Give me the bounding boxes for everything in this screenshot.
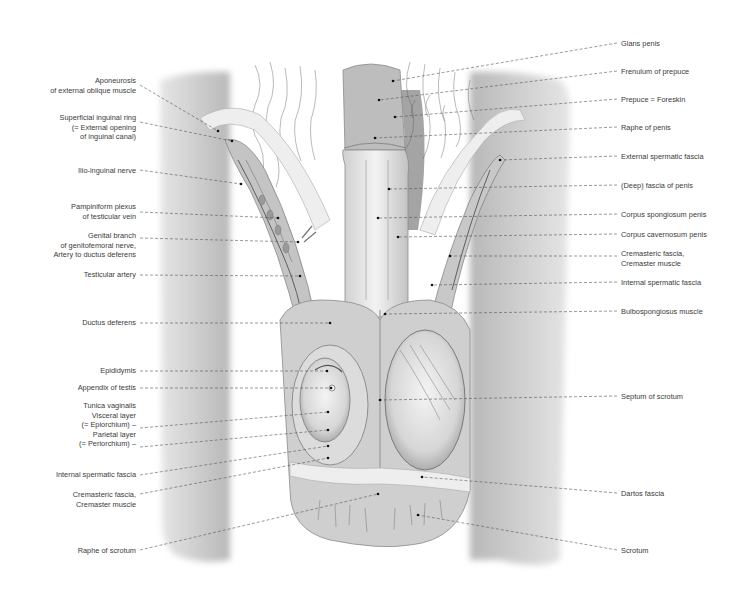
label-testicular-artery: Testicular artery [84, 270, 136, 280]
label-aponeurosis: Aponeurosis of external oblique muscle [50, 76, 136, 95]
label-appendix-of-testis: Appendix of testis [78, 383, 136, 393]
label-frenulum-of-prepuce: Frenulum of prepuce [621, 67, 689, 77]
label-scrotum: Scrotum [621, 546, 649, 556]
label-raphe-of-penis: Raphe of penis [621, 123, 671, 133]
label-ductus-deferens: Ductus deferens [82, 318, 136, 328]
label-corpus-cavernosum: Corpus cavernosum penis [621, 230, 707, 240]
label-corpus-spongiosum: Corpus spongiosum penis [621, 210, 706, 220]
penis [343, 64, 409, 318]
label-raphe-of-scrotum: Raphe of scrotum [78, 546, 136, 556]
label-internal-spermatic-fascia-left: Internal spermatic fascia [56, 470, 136, 480]
label-septum-of-scrotum: Septum of scrotum [621, 392, 683, 402]
label-deep-fascia-of-penis: (Deep) fascia of penis [621, 181, 693, 191]
label-ilio-inguinal-nerve: Ilio-inguinal nerve [78, 166, 136, 176]
label-external-spermatic-fascia: External spermatic fascia [621, 152, 704, 162]
label-epididymis: Epididymis [100, 366, 136, 376]
label-tunica-vaginalis: Tunica vaginalis Visceral layer (= Epior… [79, 401, 136, 449]
label-bulbospongiosus: Bulbospongiosus muscle [621, 307, 703, 317]
label-glans-penis: Glans penis [621, 39, 660, 49]
label-cremasteric-fascia-right: Cremasteric fascia, Cremaster muscle [621, 249, 684, 268]
label-prepuce: Prepuce = Foreskin [621, 95, 685, 105]
thigh-right [470, 72, 570, 565]
label-internal-spermatic-fascia-right: Internal spermatic fascia [621, 278, 701, 288]
label-superficial-inguinal-ring: Superficial inguinal ring (= External op… [60, 113, 136, 142]
label-cremasteric-fascia-left: Cremasteric fascia, Cremaster muscle [73, 490, 136, 509]
scrotum [280, 300, 470, 547]
label-genital-branch: Genital branch of genitofemoral nerve, A… [53, 231, 136, 260]
label-pampiniform-plexus: Pampiniform plexus of testicular vein [71, 202, 136, 221]
label-dartos-fascia: Dartos fascia [621, 489, 664, 499]
clip-instrument [302, 226, 316, 242]
